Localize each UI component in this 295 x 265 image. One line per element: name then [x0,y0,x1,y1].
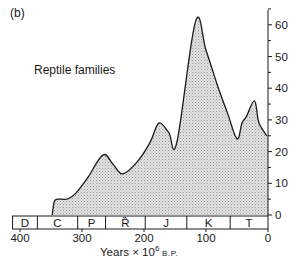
y-tick-label: 30 [275,114,288,126]
x-axis-title-text: Years × 10 [100,246,155,258]
y-tick-label: 50 [275,51,288,63]
y-tick-label: 40 [275,82,288,94]
geologic-period-bar: DCPȐJKT [13,216,268,229]
y-tick-label: 20 [275,146,288,158]
period-label-k: K [205,217,213,229]
period-label-p: P [88,217,96,229]
x-tick-label: 300 [72,232,91,244]
period-label-d: D [21,217,29,229]
x-tick-label: 200 [134,232,153,244]
y-tick-label: 10 [275,177,288,189]
period-label-tr: Ȑ [121,217,129,229]
x-axis: 4003002001000 [10,229,271,244]
plot-area [52,17,268,215]
x-axis-title-suffix: B.P. [159,249,178,258]
period-label-j: J [163,217,169,229]
x-tick-label: 100 [196,232,215,244]
x-tick-label: 400 [10,232,29,244]
period-label-c: C [53,217,61,229]
x-axis-title: Years × 106 B.P. [100,244,178,258]
period-label-t: T [246,217,253,229]
area-fill [52,17,268,215]
y-tick-label: 0 [275,209,281,221]
y-tick-label: 60 [275,19,288,31]
x-tick-label: 0 [265,232,271,244]
reptile-families-chart: DCPȐJKT 0102030405060 4003002001000 [0,0,295,265]
y-axis: 0102030405060 [268,9,288,221]
